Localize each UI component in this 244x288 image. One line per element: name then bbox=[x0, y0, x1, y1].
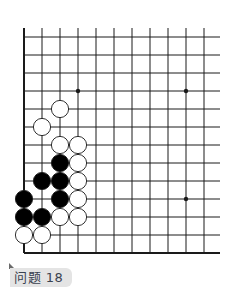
white-stone-icon[interactable] bbox=[69, 172, 86, 189]
white-stone-icon[interactable] bbox=[51, 136, 68, 153]
white-stone-icon[interactable] bbox=[33, 118, 50, 135]
white-stone-icon[interactable] bbox=[15, 226, 32, 243]
stones-layer bbox=[15, 100, 86, 243]
black-stone-icon[interactable] bbox=[51, 154, 68, 171]
white-stone-icon[interactable] bbox=[69, 190, 86, 207]
problem-number-label: 问题 18 bbox=[10, 268, 72, 287]
black-stone-icon[interactable] bbox=[51, 172, 68, 189]
go-board[interactable] bbox=[0, 0, 244, 260]
white-stone-icon[interactable] bbox=[69, 208, 86, 225]
black-stone-icon[interactable] bbox=[15, 190, 32, 207]
star-point-icon bbox=[184, 89, 188, 93]
black-stone-icon[interactable] bbox=[15, 208, 32, 225]
star-point-icon bbox=[184, 197, 188, 201]
star-point-icon bbox=[76, 89, 80, 93]
black-stone-icon[interactable] bbox=[33, 172, 50, 189]
black-stone-icon[interactable] bbox=[51, 190, 68, 207]
white-stone-icon[interactable] bbox=[33, 226, 50, 243]
white-stone-icon[interactable] bbox=[51, 100, 68, 117]
white-stone-icon[interactable] bbox=[51, 208, 68, 225]
white-stone-icon[interactable] bbox=[69, 154, 86, 171]
black-stone-icon[interactable] bbox=[33, 208, 50, 225]
white-stone-icon[interactable] bbox=[69, 136, 86, 153]
